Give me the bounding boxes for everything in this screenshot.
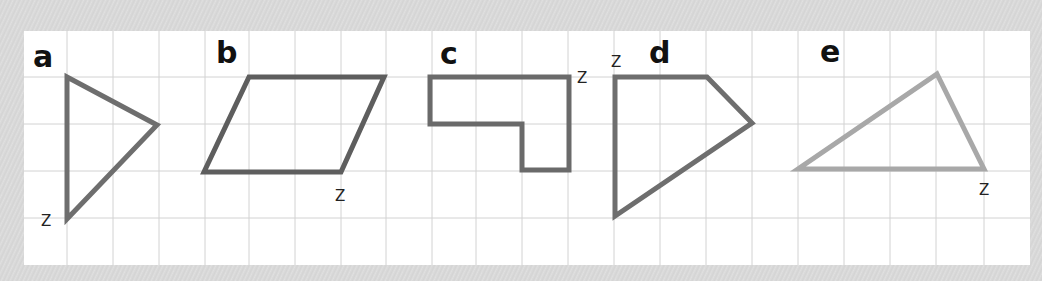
vertex-label-z: Z [577,69,587,87]
grid-paper [24,31,1030,265]
vertex-label-z: Z [41,212,51,230]
worksheet-canvas: aZbZcZdZeZ [0,0,1042,281]
vertex-label-z: Z [611,53,621,71]
shape-label: e [820,34,840,69]
vertex-label-z: Z [979,181,989,199]
vertex-label-z: Z [335,187,345,205]
shape-label: d [649,35,670,70]
shape-label: a [33,39,53,74]
shape-label: b [216,35,237,70]
shape-label: c [440,36,458,71]
